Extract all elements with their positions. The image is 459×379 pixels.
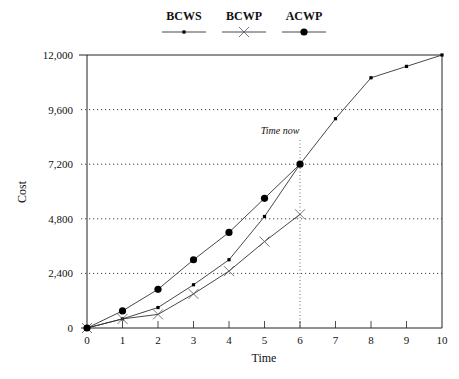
legend-item-bcwp: BCWP: [222, 9, 266, 37]
earned-value-chart: BCWSBCWPACWP Time now 01234567891002,400…: [0, 0, 459, 379]
time-now-label: Time now: [261, 125, 300, 136]
axes: [79, 55, 442, 328]
x-tick-label: 9: [404, 334, 410, 346]
x-tick-label: 4: [226, 334, 232, 346]
point-acwp-2: [154, 286, 161, 293]
legend-label-bcwp: BCWP: [226, 9, 262, 23]
x-axis-title: Time: [252, 351, 277, 365]
series-group: [82, 53, 444, 333]
legend-label-bcws: BCWS: [166, 9, 202, 23]
x-tick-label: 8: [368, 334, 374, 346]
y-tick-label: 7,200: [48, 158, 73, 170]
y-tick-label: 2,400: [48, 267, 73, 279]
point-acwp-1: [119, 307, 126, 314]
point-bcws-2: [156, 306, 159, 309]
y-tick-label: 4,800: [48, 213, 73, 225]
series-line-bcws: [87, 55, 442, 328]
point-bcws-7: [334, 117, 337, 120]
x-tick-label: 3: [191, 334, 197, 346]
point-bcwp-2: [153, 309, 163, 319]
x-tick-label: 10: [437, 334, 449, 346]
x-tick-label: 2: [155, 334, 161, 346]
x-tick-label: 6: [297, 334, 303, 346]
y-tick-label: 9,600: [48, 104, 73, 116]
point-acwp-0: [83, 324, 90, 331]
point-bcws-10: [440, 53, 443, 56]
y-tick-label: 0: [68, 322, 74, 334]
annotations: Time now: [261, 125, 300, 328]
y-tick-label: 12,000: [43, 49, 74, 61]
legend-label-acwp: ACWP: [286, 9, 323, 23]
point-acwp-5: [261, 195, 268, 202]
series-line-acwp: [87, 164, 300, 328]
legend-item-acwp: ACWP: [282, 9, 326, 36]
tick-labels: 01234567891002,4004,8007,2009,60012,000: [43, 49, 448, 346]
y-axis-title: Cost: [15, 180, 29, 203]
legend: BCWSBCWPACWP: [162, 9, 326, 37]
point-bcwp-3: [189, 289, 199, 299]
point-bcwp-4: [224, 266, 234, 276]
x-tick-label: 0: [84, 334, 90, 346]
legend-marker-bcws: [182, 30, 185, 33]
legend-item-bcws: BCWS: [162, 9, 206, 34]
point-bcws-4: [227, 258, 230, 261]
point-bcws-9: [405, 65, 408, 68]
point-acwp-4: [225, 229, 232, 236]
x-tick-label: 1: [120, 334, 126, 346]
point-bcws-5: [263, 215, 266, 218]
point-acwp-3: [190, 256, 197, 263]
point-bcws-8: [369, 76, 372, 79]
x-tick-label: 5: [262, 334, 268, 346]
point-bcwp-5: [260, 237, 270, 247]
x-tick-label: 7: [333, 334, 339, 346]
legend-marker-acwp: [300, 28, 307, 35]
point-bcws-3: [192, 283, 195, 286]
point-acwp-6: [296, 161, 303, 168]
